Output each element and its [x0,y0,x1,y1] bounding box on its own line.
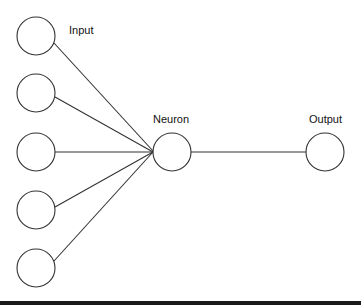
edge-input5-neuron [54,152,153,261]
output-node [306,133,344,171]
input-node-3 [17,133,55,171]
input-node-4 [17,191,55,229]
edge-input4-neuron [55,152,153,207]
neuron-node [153,133,191,171]
input-node-5 [17,249,55,287]
input-label: Input [69,24,93,36]
output-label: Output [309,113,342,125]
perceptron-diagram: Input Neuron Output [0,0,361,305]
edge-input1-neuron [54,43,153,151]
bottom-border [0,301,361,305]
edge-input2-neuron [55,97,153,152]
input-node-2 [17,74,55,112]
neuron-label: Neuron [153,113,189,125]
input-node-1 [17,17,55,55]
